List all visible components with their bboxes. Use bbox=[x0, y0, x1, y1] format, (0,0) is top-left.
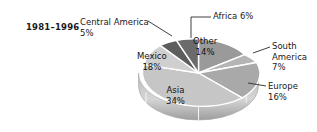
leader-line-south-america bbox=[253, 47, 270, 53]
pie-label-south-america-name2: America bbox=[272, 52, 307, 63]
leader-line-africa bbox=[191, 17, 211, 38]
pie-label-south-america: South America 7% bbox=[272, 41, 307, 73]
leader-line-central-america bbox=[148, 21, 172, 36]
pie-label-asia-name: Asia bbox=[166, 85, 185, 96]
pie-label-central-america-value: 5% bbox=[80, 28, 149, 39]
pie-label-africa: Africa 6% bbox=[213, 11, 253, 22]
pie-label-asia-value: 34% bbox=[166, 96, 185, 107]
pie-label-europe: Europe 16% bbox=[268, 81, 298, 102]
pie-label-south-america-name: South bbox=[272, 41, 307, 52]
pie-label-central-america-name: Central America bbox=[80, 17, 149, 28]
pie-label-mexico: Mexico 18% bbox=[137, 51, 167, 72]
pie-label-other-value: 14% bbox=[193, 47, 217, 58]
pie-label-mexico-value: 18% bbox=[137, 62, 167, 73]
pie-label-other-name: Other bbox=[193, 36, 217, 47]
pie-label-asia: Asia 34% bbox=[166, 85, 185, 106]
pie-label-central-america: Central America 5% bbox=[80, 17, 149, 38]
pie-label-mexico-name: Mexico bbox=[137, 51, 167, 62]
pie-label-africa-text: Africa 6% bbox=[213, 11, 253, 22]
pie-label-south-america-value: 7% bbox=[272, 62, 307, 73]
pie-label-europe-value: 16% bbox=[268, 92, 298, 103]
pie-chart-figure: 1981–1996 bbox=[0, 0, 317, 132]
pie-label-europe-name: Europe bbox=[268, 81, 298, 92]
pie-label-other: Other 14% bbox=[193, 36, 217, 57]
